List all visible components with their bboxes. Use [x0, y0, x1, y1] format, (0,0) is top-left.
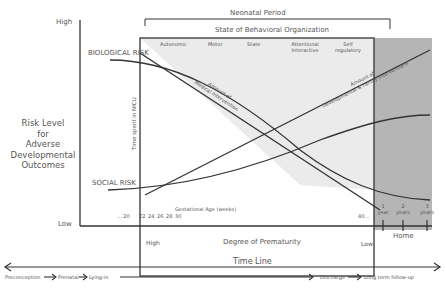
behavioral-org-label: State of Behavioral Organization: [215, 27, 329, 34]
timeline-stage-prenatal: Prenatal: [58, 275, 79, 280]
ga-tick: 28: [166, 214, 172, 219]
stage-self-regulatory: Self regulatory: [333, 41, 363, 53]
stage-motor: Motor: [208, 42, 222, 47]
timeline-stage-long-term-followup: Long term follow-up: [364, 275, 414, 280]
neonatal-period-label: Neonatal Period: [230, 10, 286, 17]
social-risk-label: SOCIAL RISK: [92, 180, 136, 187]
tick-unit: years: [419, 209, 435, 215]
followup-tick-1: 1 year: [376, 203, 390, 215]
y-title-line: for: [8, 129, 78, 140]
prematurity-high-label: High: [146, 240, 160, 246]
timeline-title: Time Line: [233, 258, 272, 266]
y-title-line: Risk Level: [8, 118, 78, 129]
y-title-line: Adverse: [8, 139, 78, 150]
timeline-stage-preconception: Preconception: [5, 275, 41, 280]
y-title-line: Developmental: [8, 150, 78, 161]
y-axis-title: Risk Level for Adverse Developmental Out…: [8, 118, 78, 171]
timeline-stage-lying-in: Lying-in: [89, 275, 108, 280]
nicu-region: [140, 38, 374, 190]
ga-tick: 26: [157, 214, 163, 219]
ga-tick: 24: [148, 214, 154, 219]
gestational-age-label: Gestational Age (weeks): [175, 207, 236, 212]
stage-state: State: [247, 42, 260, 47]
home-label: Home: [393, 233, 414, 240]
prematurity-title: Degree of Prematurity: [223, 239, 301, 246]
ga-tick: 30: [175, 214, 181, 219]
biological-risk-label: BIOLOGICAL RISK: [88, 50, 149, 57]
time-in-nicu-label: Time spent in NICU: [131, 97, 137, 150]
timeline-stage-discharge: Discharge: [320, 275, 345, 280]
followup-tick-3: 3 years: [419, 203, 435, 215]
ga-end-tick: 40...: [358, 214, 369, 219]
tick-unit: years: [395, 209, 411, 215]
y-axis-high-label: High: [56, 19, 72, 26]
stage-attentional-interactive: Attentional Interactive: [285, 41, 325, 53]
ga-tick: 22: [139, 214, 145, 219]
followup-tick-2: 2 years: [395, 203, 411, 215]
stage-autonomic: Autonomic: [160, 42, 187, 47]
y-title-line: Outcomes: [8, 160, 78, 171]
ga-tick: ... 20: [117, 214, 130, 219]
y-axis-low-label: Low: [58, 221, 72, 228]
tick-unit: year: [376, 209, 390, 215]
prematurity-low-label: Low: [361, 241, 373, 247]
